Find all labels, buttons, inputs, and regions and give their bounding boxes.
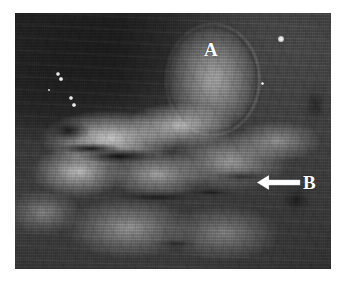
vessel-striation-layer [15, 13, 331, 269]
annotation-label-a: A [204, 40, 218, 59]
mesenteric-clefts-layer [15, 13, 331, 269]
specular-highlight [278, 36, 283, 41]
bowel-loops-layer [15, 13, 331, 269]
figure-root: A B [0, 0, 346, 282]
round-nodule-mass-layer [15, 13, 331, 269]
specular-highlight [72, 103, 76, 107]
specular-highlight [56, 72, 60, 76]
pale-serosal-sheet-layer [15, 13, 331, 269]
specular-highlight [48, 89, 51, 92]
gross-specimen-photograph [15, 13, 331, 269]
specular-highlight [69, 96, 73, 100]
photo-base-tone-layer [15, 13, 331, 269]
annotation-arrow-b-icon [256, 174, 301, 191]
dark-upper-left-tissue-layer [15, 13, 331, 269]
vignette-layer [15, 13, 331, 269]
specular-highlight [261, 82, 264, 85]
film-grain-layer [15, 13, 331, 269]
specular-highlight [59, 77, 62, 80]
annotation-label-b: B [303, 173, 316, 192]
